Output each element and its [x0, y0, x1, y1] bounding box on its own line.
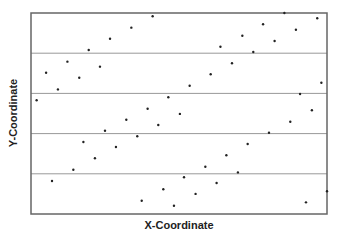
data-point: [204, 166, 206, 168]
data-point: [94, 157, 96, 159]
data-point: [162, 188, 164, 190]
data-point: [146, 107, 148, 109]
data-point: [57, 88, 59, 90]
data-point: [268, 132, 270, 134]
data-point: [72, 169, 74, 171]
data-point: [194, 193, 196, 195]
data-point: [283, 12, 285, 14]
data-point: [273, 40, 275, 42]
data-point: [141, 200, 143, 202]
data-point: [252, 51, 254, 53]
data-point: [295, 28, 297, 30]
data-point: [167, 96, 169, 98]
data-point: [188, 85, 190, 87]
data-point: [45, 71, 47, 73]
data-points: [35, 12, 328, 207]
data-point: [183, 176, 185, 178]
data-point: [299, 93, 301, 95]
data-point: [151, 15, 153, 17]
data-point: [173, 205, 175, 207]
y-axis-label: Y-Coordinate: [7, 79, 19, 147]
data-point: [320, 82, 322, 84]
data-point: [179, 113, 181, 115]
data-point: [316, 17, 318, 19]
data-point: [35, 99, 37, 101]
data-point: [66, 60, 68, 62]
data-point: [104, 130, 106, 132]
data-point: [246, 143, 248, 145]
scatter-chart: [0, 0, 347, 238]
data-point: [237, 171, 239, 173]
data-point: [157, 124, 159, 126]
data-point: [289, 121, 291, 123]
data-point: [136, 135, 138, 137]
data-point: [88, 49, 90, 51]
data-point: [262, 23, 264, 25]
data-point: [125, 119, 127, 121]
data-point: [82, 141, 84, 143]
data-point: [231, 62, 233, 64]
data-point: [99, 65, 101, 67]
data-point: [109, 38, 111, 40]
data-point: [215, 182, 217, 184]
data-point: [130, 26, 132, 28]
data-point: [209, 73, 211, 75]
data-point: [326, 190, 328, 192]
data-point: [115, 146, 117, 148]
data-point: [78, 77, 80, 79]
data-point: [241, 35, 243, 37]
data-point: [225, 154, 227, 156]
data-point: [305, 201, 307, 203]
data-point: [311, 109, 313, 111]
data-point: [51, 180, 53, 182]
x-axis-label: X-Coordinate: [31, 219, 327, 231]
data-point: [219, 46, 221, 48]
